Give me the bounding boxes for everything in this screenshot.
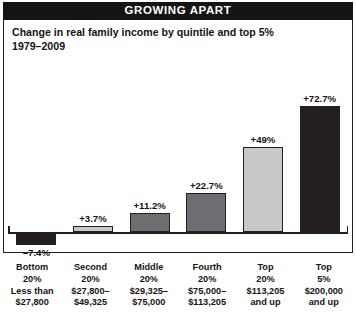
bar-value-label-3: +11.2%	[120, 200, 180, 211]
chart-figure: GROWING APART Change in real family inco…	[0, 0, 356, 322]
bar-value-label-2: +3.7%	[63, 213, 123, 224]
axis-tick-left	[8, 226, 10, 233]
category-label-2: Second20%$27,800–$49,325	[61, 262, 119, 320]
category-label-5-line-3: $113,205	[236, 286, 294, 298]
bar-4	[186, 193, 226, 232]
category-label-6-line-1: Top	[295, 262, 353, 274]
category-label-5: Top20%$113,205and up	[236, 262, 294, 320]
category-label-3-line-2: 20%	[120, 274, 178, 286]
bar-value-label-1: –7.4%	[6, 247, 66, 258]
category-label-1-line-4: $27,800	[3, 297, 61, 309]
bar-value-label-6: +72.7%	[290, 93, 350, 104]
chart-title: GROWING APART	[125, 5, 232, 17]
chart-banner: GROWING APART	[3, 2, 353, 20]
bar-value-label-4: +22.7%	[176, 180, 236, 191]
category-label-5-line-4: and up	[236, 297, 294, 309]
category-label-4-line-4: $113,205	[178, 297, 236, 309]
category-label-5-line-2: 20%	[236, 274, 294, 286]
category-label-6-line-2: 5%	[295, 274, 353, 286]
plot-area: –7.4%+3.7%+11.2%+22.7%+49%+72.7%	[8, 40, 348, 253]
category-label-4-line-1: Fourth	[178, 262, 236, 274]
bar-1	[16, 232, 56, 245]
category-label-4: Fourth20%$75,000–$113,205	[178, 262, 236, 320]
category-label-6-line-3: $200,000	[295, 286, 353, 298]
category-label-2-line-3: $27,800–	[61, 286, 119, 298]
category-label-1: Bottom20%Less than$27,800	[3, 262, 61, 320]
category-label-4-line-2: 20%	[178, 274, 236, 286]
category-label-1-line-1: Bottom	[3, 262, 61, 274]
category-label-2-line-2: 20%	[61, 274, 119, 286]
category-label-6-line-4: and up	[295, 297, 353, 309]
bar-value-label-5: +49%	[233, 134, 293, 145]
category-axis-labels: Bottom20%Less than$27,800Second20%$27,80…	[3, 262, 353, 320]
category-label-1-line-3: Less than	[3, 286, 61, 298]
category-label-3: Middle20%$29,325–$75,000	[120, 262, 178, 320]
category-label-4-line-3: $75,000–	[178, 286, 236, 298]
category-label-1-line-2: 20%	[3, 274, 61, 286]
category-label-5-line-1: Top	[236, 262, 294, 274]
bar-5	[243, 147, 283, 232]
axis-tick-right	[347, 226, 349, 233]
category-label-3-line-1: Middle	[120, 262, 178, 274]
bar-6	[300, 106, 340, 232]
category-label-2-line-4: $49,325	[61, 297, 119, 309]
chart-subtitle-line1: Change in real family income by quintile…	[12, 26, 274, 38]
category-label-2-line-1: Second	[61, 262, 119, 274]
zero-axis-line	[8, 232, 348, 234]
category-label-3-line-4: $75,000	[120, 297, 178, 309]
bar-2	[73, 226, 113, 232]
category-label-3-line-3: $29,325–	[120, 286, 178, 298]
bar-3	[130, 213, 170, 232]
category-label-6: Top5%$200,000and up	[295, 262, 353, 320]
